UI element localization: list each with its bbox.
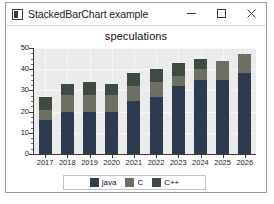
y-tick-minor (31, 59, 33, 60)
legend-label: C (137, 179, 143, 187)
legend-swatch (90, 178, 99, 187)
bar-segment-C[interactable] (39, 110, 52, 121)
y-tick-label: 30 (7, 86, 29, 94)
y-tick-mark (29, 90, 33, 91)
y-tick-label: 20 (7, 108, 29, 116)
bar-2025[interactable] (216, 61, 229, 154)
y-tick-minor (31, 96, 33, 97)
legend-swatch (152, 178, 161, 187)
x-axis-labels: 2017201820192020202120222023202420252026 (34, 159, 256, 167)
y-tick-minor (31, 149, 33, 150)
bar-2021[interactable] (127, 73, 140, 154)
y-tick-minor (31, 122, 33, 123)
app-icon (12, 9, 23, 20)
bar-segment-C[interactable] (238, 54, 251, 73)
bar-segment-C[interactable] (172, 76, 185, 87)
bar-segment-C[interactable] (194, 69, 207, 80)
legend-item-c[interactable]: C (125, 178, 143, 187)
y-tick-mark (29, 154, 33, 155)
application-window: StackedBarChart example speculations 010… (5, 2, 267, 193)
bar-segment-C++[interactable] (150, 69, 163, 82)
y-tick-mark (29, 69, 33, 70)
y-tick-minor (31, 101, 33, 102)
bar-segment-C++[interactable] (127, 73, 140, 86)
bar-segment-java[interactable] (194, 80, 207, 154)
bar-series-group (34, 48, 256, 154)
chart-title: speculations (6, 30, 266, 42)
minimize-button[interactable] (176, 3, 206, 25)
window-title: StackedBarChart example (28, 8, 176, 20)
bar-segment-C[interactable] (83, 95, 96, 112)
y-tick-minor (31, 53, 33, 54)
y-tick-label: 50 (7, 44, 29, 52)
y-tick-minor (31, 117, 33, 118)
bar-segment-C++[interactable] (83, 82, 96, 95)
y-tick-mark (29, 133, 33, 134)
y-tick-label: 0 (7, 150, 29, 158)
bar-segment-C++[interactable] (39, 97, 52, 110)
maximize-icon (216, 8, 227, 19)
bar-segment-C[interactable] (61, 95, 74, 112)
bar-segment-C++[interactable] (61, 84, 74, 95)
chart-canvas: speculations 01020304050 201720182019202… (6, 26, 266, 192)
bar-2018[interactable] (61, 84, 74, 154)
bar-segment-java[interactable] (105, 112, 118, 154)
x-tick-label: 2026 (234, 159, 256, 167)
x-tick-label: 2018 (56, 159, 78, 167)
minimize-icon (186, 8, 197, 19)
bar-segment-C[interactable] (150, 82, 163, 97)
y-tick-label: 10 (7, 129, 29, 137)
bar-segment-java[interactable] (150, 97, 163, 154)
y-axis-labels: 01020304050 (6, 26, 29, 192)
close-button[interactable] (236, 3, 266, 25)
y-tick-minor (31, 75, 33, 76)
bar-segment-java[interactable] (83, 112, 96, 154)
bar-segment-java[interactable] (127, 101, 140, 154)
bar-segment-C++[interactable] (105, 84, 118, 95)
window-controls (176, 3, 266, 26)
bar-segment-java[interactable] (238, 73, 251, 154)
x-tick-label: 2017 (34, 159, 56, 167)
y-tick-minor (31, 128, 33, 129)
bar-segment-java[interactable] (172, 86, 185, 154)
bar-segment-C++[interactable] (194, 59, 207, 70)
bar-2019[interactable] (83, 82, 96, 154)
y-tick-minor (31, 106, 33, 107)
x-tick-label: 2022 (145, 159, 167, 167)
legend-item-cpp[interactable]: C++ (152, 178, 179, 187)
x-tick-label: 2024 (189, 159, 211, 167)
bar-segment-C[interactable] (216, 61, 229, 80)
title-bar: StackedBarChart example (6, 3, 266, 26)
bar-segment-C[interactable] (127, 86, 140, 101)
y-tick-mark (29, 112, 33, 113)
y-tick-minor (31, 138, 33, 139)
x-tick-label: 2020 (101, 159, 123, 167)
legend-label: java (102, 179, 117, 187)
bar-2023[interactable] (172, 63, 185, 154)
bar-2024[interactable] (194, 59, 207, 154)
bar-2022[interactable] (150, 69, 163, 154)
y-tick-minor (31, 64, 33, 65)
bar-2017[interactable] (39, 97, 52, 154)
bar-segment-java[interactable] (216, 80, 229, 154)
close-icon (246, 8, 257, 19)
x-tick-label: 2023 (167, 159, 189, 167)
legend-item-java[interactable]: java (90, 178, 117, 187)
bar-segment-C[interactable] (105, 95, 118, 112)
legend-label: C++ (164, 179, 179, 187)
maximize-button[interactable] (206, 3, 236, 25)
y-tick-label: 40 (7, 65, 29, 73)
bar-segment-java[interactable] (61, 112, 74, 154)
y-tick-minor (31, 143, 33, 144)
x-tick-label: 2025 (212, 159, 234, 167)
bar-segment-java[interactable] (39, 120, 52, 154)
plot-area (34, 48, 256, 154)
bar-2020[interactable] (105, 84, 118, 154)
y-tick-minor (31, 85, 33, 86)
legend-swatch (125, 178, 134, 187)
y-tick-minor (31, 80, 33, 81)
x-tick-label: 2021 (123, 159, 145, 167)
bar-segment-C++[interactable] (172, 63, 185, 76)
bar-2026[interactable] (238, 54, 251, 154)
x-tick-label: 2019 (78, 159, 100, 167)
